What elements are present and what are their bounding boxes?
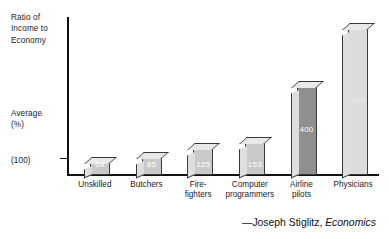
y-axis-title: Ratio of Income to Economy	[11, 12, 48, 46]
caption-work-title: Economics	[325, 217, 376, 228]
bar-value-label: 660	[349, 96, 367, 105]
bar-value-label: 153	[246, 160, 264, 169]
bar-top-face	[239, 137, 272, 144]
bar-slot: 85	[136, 18, 162, 175]
x-axis-category-label: Physicians	[321, 180, 385, 190]
bar-slot: 153	[239, 18, 265, 175]
bar: 153	[245, 141, 265, 175]
caption: —Joseph Stiglitz, Economics	[242, 217, 376, 228]
bar-top-face	[136, 152, 169, 159]
y-axis-average-label: Average (%)	[11, 108, 42, 131]
bar: 660	[348, 27, 368, 175]
bar-slot: 400	[291, 18, 317, 175]
bar-top-face	[342, 23, 375, 30]
bar: 400	[297, 85, 317, 175]
bar-top-face	[187, 143, 220, 150]
y-axis-tick-100	[60, 158, 68, 159]
bar-slot: 660	[342, 18, 368, 175]
bar: 64	[90, 161, 110, 175]
plot-area: 6485125153400660	[69, 18, 379, 175]
bar: 125	[193, 147, 213, 175]
bar-value-label: 85	[143, 160, 161, 169]
bar-value-label: 64	[91, 160, 109, 169]
y-axis-baseline-label: (100)	[11, 155, 31, 166]
bar: 85	[142, 156, 162, 175]
bar-chart: Ratio of Income to Economy Average (%) (…	[0, 0, 389, 239]
bar-top-face	[291, 81, 324, 88]
bar-value-label: 125	[194, 160, 212, 169]
bar-side-face	[291, 90, 299, 178]
bar-value-label: 400	[298, 125, 316, 134]
bar-slot: 64	[84, 18, 110, 175]
bar-side-face	[342, 32, 350, 179]
bar-slot: 125	[187, 18, 213, 175]
caption-attribution: —Joseph Stiglitz,	[242, 217, 322, 228]
